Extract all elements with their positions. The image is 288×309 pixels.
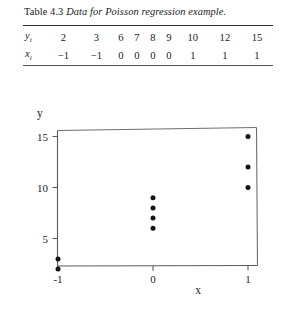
scatter-plot-svg: 15 10 5 -1 0 1 y x — [0, 95, 288, 309]
table-figure: Table 4.3 Data for Poisson regression ex… — [0, 0, 288, 76]
scatter-point — [151, 216, 156, 221]
scatter-point — [246, 185, 251, 190]
row-label-y: yi — [23, 28, 47, 46]
y-tick-label-5: 5 — [43, 233, 49, 245]
cell-x-3: 0 — [129, 46, 145, 64]
table-rule-top — [23, 25, 273, 26]
cell-x-4: 0 — [145, 46, 161, 64]
cell-y-5: 9 — [161, 28, 177, 46]
scatter-points-layer — [56, 134, 251, 272]
table-caption: Table 4.3 Data for Poisson regression ex… — [24, 5, 272, 19]
frame-right-edge — [257, 128, 258, 266]
scatter-point — [56, 267, 61, 272]
scatter-plot-figure: 15 10 5 -1 0 1 y x — [0, 95, 288, 309]
scatter-point — [151, 205, 156, 210]
scatter-point — [246, 134, 251, 139]
cell-y-0: 2 — [47, 28, 80, 46]
x-tick-label-1: 1 — [245, 273, 251, 285]
cell-y-7: 12 — [209, 28, 241, 46]
cell-y-6: 10 — [177, 28, 209, 46]
table-rule-bottom — [23, 65, 273, 66]
y-axis-ticks — [53, 137, 58, 239]
cell-y-4: 8 — [145, 28, 161, 46]
y-axis-title: y — [37, 107, 43, 120]
scatter-point — [56, 256, 61, 261]
x-axis-line — [57, 266, 258, 267]
cell-x-1: −1 — [80, 46, 113, 64]
data-table: yi 2 3 6 7 8 9 10 12 15 xi −1 −1 0 0 0 0… — [23, 28, 273, 64]
x-tick-label-0: 0 — [150, 273, 156, 285]
row-label-x: xi — [23, 46, 47, 64]
cell-y-8: 15 — [241, 28, 273, 46]
scatter-point — [246, 165, 251, 170]
cell-y-2: 6 — [113, 28, 129, 46]
cell-x-5: 0 — [161, 46, 177, 64]
table-row: xi −1 −1 0 0 0 0 1 1 1 — [23, 46, 273, 64]
cell-y-3: 7 — [129, 28, 145, 46]
table-caption-title: Data for Poisson regression example. — [66, 6, 226, 17]
scatter-point — [151, 195, 156, 200]
x-axis-title: x — [195, 284, 201, 296]
cell-x-2: 0 — [113, 46, 129, 64]
table-caption-label: Table 4.3 — [24, 6, 63, 17]
row-label-x-subscript: i — [30, 54, 32, 62]
cell-y-1: 3 — [80, 28, 113, 46]
cell-x-7: 1 — [209, 46, 241, 64]
cell-x-0: −1 — [47, 46, 80, 64]
row-label-y-subscript: i — [30, 36, 32, 44]
frame-top-edge — [58, 128, 257, 131]
cell-x-8: 1 — [241, 46, 273, 64]
y-tick-label-15: 15 — [37, 131, 49, 143]
scatter-point — [151, 226, 156, 231]
y-tick-label-10: 10 — [37, 182, 49, 194]
x-tick-label-neg1: -1 — [53, 273, 62, 285]
cell-x-6: 1 — [177, 46, 209, 64]
plot-frame — [57, 128, 258, 267]
table-row: yi 2 3 6 7 8 9 10 12 15 — [23, 28, 273, 46]
